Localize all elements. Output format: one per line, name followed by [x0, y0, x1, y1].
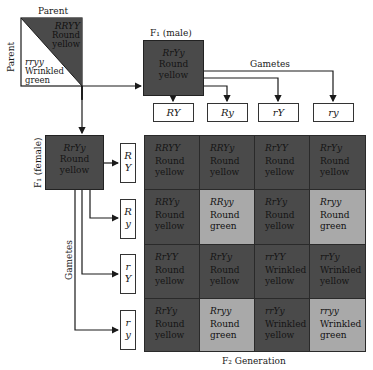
f1-female-genotype: RrYy: [46, 143, 103, 154]
cell-genotype: RRYy: [210, 143, 254, 154]
cell-shape: Round: [265, 210, 295, 220]
f1-male-genotype: RrYy: [144, 48, 203, 59]
cell-shape: Round: [265, 156, 295, 166]
female-gamete-ry: r y: [120, 310, 136, 350]
cell-shape: Round: [155, 156, 185, 166]
f1-female-box: RrYy Round yellow: [45, 135, 104, 190]
cell-genotype: rrYy: [320, 252, 365, 263]
grid-cell: RrYyRoundyellow: [309, 135, 366, 190]
grid-cell: RrYyRoundyellow: [254, 189, 310, 245]
grid-cell: rrYyWrinkledyellow: [254, 298, 310, 352]
cell-color: yellow: [155, 167, 184, 177]
f1-male-phenotype-2: yellow: [144, 70, 203, 81]
cell-color: yellow: [265, 221, 294, 231]
male-gamete-RY: RY: [153, 103, 194, 122]
cell-genotype: Rryy: [210, 306, 254, 317]
f1-female-phenotype-2: yellow: [46, 165, 103, 176]
grid-cell: rrYYWrinkledyellow: [254, 244, 310, 299]
cell-color: yellow: [210, 167, 239, 177]
grid-cell: RRyyRoundgreen: [199, 189, 255, 245]
cell-shape: Round: [210, 156, 240, 166]
parent-recessive-phenotype-2: green: [25, 76, 64, 85]
parent-top-label: Parent: [38, 6, 68, 16]
gamete-allele-2: y: [121, 218, 135, 230]
cell-genotype: rrYy: [265, 306, 309, 317]
gamete-allele-1: r: [121, 261, 135, 273]
cell-shape: Wrinkled: [265, 265, 306, 275]
grid-cell: RrYyRoundyellow: [144, 298, 200, 352]
cell-genotype: RrYY: [265, 143, 309, 154]
punnett-grid: RRYYRoundyellow RRYyRoundyellow RrYYRoun…: [144, 135, 366, 352]
cell-genotype: RRYy: [155, 197, 199, 208]
cell-genotype: RrYy: [320, 143, 365, 154]
male-gamete-ry: ry: [313, 103, 354, 122]
cell-color: green: [210, 221, 237, 231]
gamete-allele-2: Y: [121, 273, 135, 285]
female-gametes-label: Gametes: [64, 240, 74, 280]
gamete-allele-1: R: [121, 150, 135, 162]
cell-genotype: rrYY: [265, 252, 309, 263]
cell-color: yellow: [155, 276, 184, 286]
cell-genotype: RRYY: [155, 143, 199, 154]
f1-male-label: F₁ (male): [150, 28, 192, 38]
cell-shape: Round: [155, 319, 185, 329]
grid-cell: rryyWrinkledgreen: [309, 298, 366, 352]
grid-cell: RRYyRoundyellow: [144, 189, 200, 245]
cell-color: yellow: [155, 221, 184, 231]
cell-genotype: Rryy: [320, 197, 365, 208]
grid-cell: RryyRoundgreen: [199, 298, 255, 352]
grid-cell: RrYYRoundyellow: [254, 135, 310, 190]
gamete-allele-1: r: [121, 317, 135, 329]
grid-cell: rrYyWrinkledyellow: [309, 244, 366, 299]
male-gamete-Ry: Ry: [207, 103, 248, 122]
parent-dominant-phenotype-2: yellow: [50, 40, 80, 49]
cell-shape: Round: [320, 156, 350, 166]
cell-shape: Round: [155, 210, 185, 220]
f2-generation-caption: F₂ Generation: [222, 356, 286, 366]
female-gamete-RY: R Y: [120, 143, 136, 183]
cell-shape: Round: [210, 319, 240, 329]
grid-cell: RrYyRoundyellow: [199, 244, 255, 299]
cell-color: green: [320, 330, 347, 340]
cell-genotype: RrYy: [265, 197, 309, 208]
gamete-allele-2: y: [121, 329, 135, 341]
cell-shape: Round: [155, 265, 185, 275]
cell-shape: Wrinkled: [320, 319, 361, 329]
gamete-allele-1: R: [121, 206, 135, 218]
gamete-allele-2: Y: [121, 162, 135, 174]
male-gamete-rY: rY: [258, 103, 299, 122]
cell-color: green: [210, 330, 237, 340]
f1-female-label: F₁ (female): [33, 138, 43, 189]
female-gamete-rY: r Y: [120, 254, 136, 294]
parent-side-label: Parent: [6, 42, 16, 72]
f1-male-phenotype-1: Round: [144, 59, 203, 70]
cell-color: yellow: [265, 330, 294, 340]
f1-male-box: RrYy Round yellow: [143, 40, 204, 96]
cell-genotype: RRyy: [210, 197, 254, 208]
f1-female-phenotype-1: Round: [46, 154, 103, 165]
grid-cell: RRYyRoundyellow: [199, 135, 255, 190]
female-gamete-Ry: R y: [120, 199, 136, 239]
cell-genotype: RrYy: [210, 252, 254, 263]
cell-genotype: RrYY: [155, 252, 199, 263]
cell-color: yellow: [155, 330, 184, 340]
grid-cell: RrYYRoundyellow: [144, 244, 200, 299]
cell-color: green: [320, 221, 347, 231]
cell-genotype: rryy: [320, 306, 365, 317]
cell-color: yellow: [265, 167, 294, 177]
cell-color: yellow: [210, 276, 239, 286]
cell-shape: Round: [320, 210, 350, 220]
cell-shape: Round: [210, 265, 240, 275]
cell-genotype: RrYy: [155, 306, 199, 317]
cell-color: yellow: [320, 276, 349, 286]
parent-recessive: rryy Wrinkled green: [25, 58, 64, 85]
cell-shape: Wrinkled: [320, 265, 361, 275]
parent-dominant: RRYY Round yellow: [50, 22, 80, 49]
cell-color: yellow: [320, 167, 349, 177]
grid-cell: RryyRoundgreen: [309, 189, 366, 245]
cell-shape: Round: [210, 210, 240, 220]
male-gametes-label: Gametes: [250, 59, 290, 69]
cell-color: yellow: [265, 276, 294, 286]
grid-cell: RRYYRoundyellow: [144, 135, 200, 190]
cell-shape: Wrinkled: [265, 319, 306, 329]
